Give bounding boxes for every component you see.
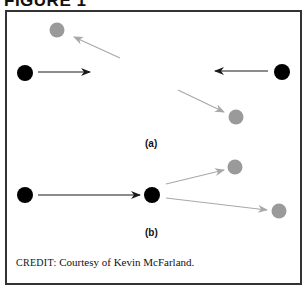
outgoing-particle bbox=[229, 110, 244, 125]
incoming-particle bbox=[274, 64, 290, 80]
outgoing-arrow bbox=[166, 170, 224, 184]
outgoing-particle bbox=[272, 204, 287, 219]
outgoing-particle bbox=[50, 23, 65, 38]
outgoing-particle bbox=[228, 160, 243, 175]
target-particle bbox=[144, 187, 160, 203]
panel-a bbox=[17, 23, 290, 125]
credit-prefix: CREDIT: bbox=[16, 257, 57, 268]
panel-b bbox=[17, 160, 287, 219]
panel-a-label: (a) bbox=[145, 138, 157, 149]
panel-b-label: (b) bbox=[145, 227, 158, 238]
incoming-particle bbox=[17, 187, 33, 203]
credit-line: CREDIT: Courtesy of Kevin McFarland. bbox=[16, 256, 194, 268]
outgoing-arrow bbox=[166, 198, 267, 210]
credit-text: Courtesy of Kevin McFarland. bbox=[57, 256, 195, 268]
outgoing-arrow bbox=[74, 37, 120, 58]
incoming-particle bbox=[17, 65, 33, 81]
outgoing-arrow bbox=[178, 90, 224, 112]
